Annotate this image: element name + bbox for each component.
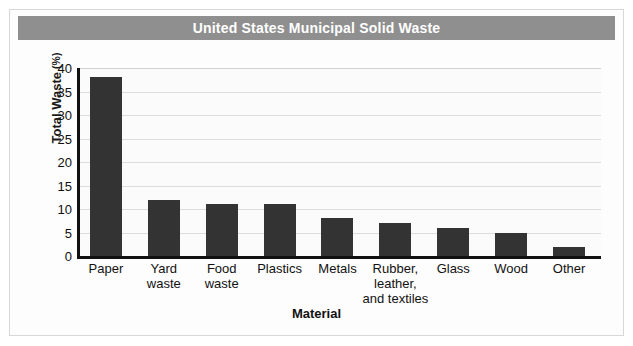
chart-title-band: United States Municipal Solid Waste bbox=[18, 16, 615, 40]
bar-slot bbox=[424, 68, 482, 256]
bar-slot bbox=[193, 68, 251, 256]
y-tick-label: 5 bbox=[65, 225, 72, 240]
bar-slot bbox=[77, 68, 135, 256]
bar-slot bbox=[251, 68, 309, 256]
y-tick-label: 40 bbox=[58, 61, 72, 76]
bar bbox=[379, 223, 411, 256]
bar-slot bbox=[366, 68, 424, 256]
y-tick-label: 20 bbox=[58, 155, 72, 170]
bar-slot bbox=[540, 68, 598, 256]
chart-title: United States Municipal Solid Waste bbox=[193, 20, 441, 36]
x-tick-label: Other bbox=[514, 261, 624, 276]
y-tick-label: 30 bbox=[58, 108, 72, 123]
bar bbox=[437, 228, 469, 256]
bar bbox=[90, 77, 122, 256]
y-tick-label: 10 bbox=[58, 202, 72, 217]
bar bbox=[321, 218, 353, 256]
x-axis-title: Material bbox=[0, 306, 633, 321]
x-axis-tick-labels: PaperYardwasteFoodwastePlasticsMetalsRub… bbox=[77, 261, 598, 309]
bar bbox=[264, 204, 296, 256]
y-tick-label: 35 bbox=[58, 84, 72, 99]
x-tick-label-line: Other bbox=[514, 261, 624, 276]
chart-figure: United States Municipal Solid Waste Tota… bbox=[0, 0, 633, 346]
bar-slot bbox=[482, 68, 540, 256]
bar bbox=[495, 233, 527, 257]
bar bbox=[206, 204, 238, 256]
bar-slot bbox=[309, 68, 367, 256]
x-tick-label-line: leather, bbox=[340, 276, 450, 291]
y-tick-label: 25 bbox=[58, 131, 72, 146]
x-tick-label-line: waste bbox=[167, 276, 277, 291]
y-tick-label: 15 bbox=[58, 178, 72, 193]
bar bbox=[553, 247, 585, 256]
bar-slot bbox=[135, 68, 193, 256]
bar bbox=[148, 200, 180, 256]
x-tick-label-line: and textiles bbox=[340, 291, 450, 306]
bar-series bbox=[77, 68, 598, 256]
y-axis-tick-labels: 0510152025303540 bbox=[44, 68, 72, 256]
